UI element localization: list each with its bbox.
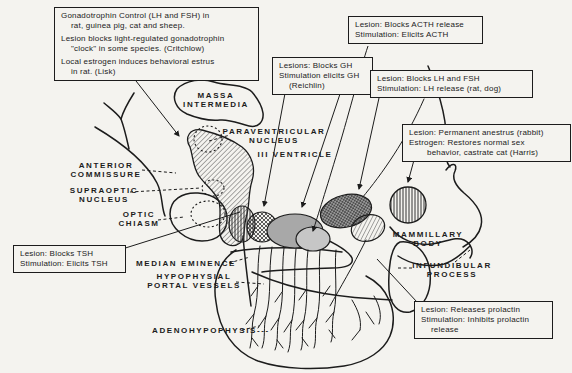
label-supraoptic-nucleus: SUPRAOPTIC NUCLEUS xyxy=(70,186,138,204)
label-third-ventricle: III VENTRICLE xyxy=(257,150,332,159)
label-anterior-commissure: ANTERIOR COMMISSURE xyxy=(70,161,141,179)
callout-prolactin: Lesion: Releases prolactin Stimulation: … xyxy=(414,301,553,339)
callout-line: "clock" in some species. (Critchlow) xyxy=(61,44,253,54)
callout-line: (Reichlin) xyxy=(279,81,367,91)
callout-line: Stimulation: LH release (rat, dog) xyxy=(377,84,527,94)
callout-gh: Lesions: Blocks GH Stimulation elicits G… xyxy=(272,57,373,95)
callout-lh-fsh: Lesion: Blocks LH and FSH Stimulation: L… xyxy=(370,70,533,98)
portal-vessels xyxy=(246,246,380,352)
callout-line: Local estrogen induces behavioral estrus xyxy=(61,57,253,67)
label-massa-intermedia: MASSA INTERMEDIA xyxy=(183,91,249,109)
label-median-eminence: MEDIAN EMINENCE xyxy=(136,259,236,268)
callout-line: behavior, castrate cat (Harris) xyxy=(409,148,565,158)
callout-anestrus: Lesion: Permanent anestrus (rabbit) Estr… xyxy=(402,124,571,162)
callout-line: Lesion: Blocks ACTH release xyxy=(355,20,477,30)
callout-line: Lesion: Releases prolactin xyxy=(421,305,547,315)
label-infundibular-process: INFUNDIBULAR PROCESS xyxy=(412,261,492,279)
callout-line: Lesion: Blocks LH and FSH xyxy=(377,74,527,84)
callout-line: in rat. (Lisk) xyxy=(61,67,253,77)
callout-line: Stimulation: Elicits ACTH xyxy=(355,30,477,40)
callout-line: Stimulation: Inhibits prolactin xyxy=(421,315,547,325)
callout-line: Lesion blocks light-regulated gonadotrop… xyxy=(61,34,253,44)
callout-line: release xyxy=(421,325,547,335)
label-mammillary-body: MAMMILLARY BODY xyxy=(393,230,463,248)
callout-line: Lesions: Blocks GH xyxy=(279,61,367,71)
label-adenohypophysis: ADENOHYPOPHYSIS--- xyxy=(152,326,270,335)
label-hypophysial-portal-vessels: HYPOPHYSIAL PORTAL VESSELS xyxy=(147,272,241,290)
mammillary-nucleus xyxy=(390,187,426,223)
label-optic-chiasm: OPTIC CHIASM xyxy=(118,210,159,228)
callout-line: Lesion: Permanent anestrus (rabbit) xyxy=(409,128,565,138)
callout-line: Lesion: Blocks TSH xyxy=(20,249,120,259)
callout-line: rat, guinea pig, cat and sheep. xyxy=(61,21,253,31)
callout-line: Stimulation elicits GH xyxy=(279,71,367,81)
callout-line: Stimulation: Elicits TSH xyxy=(20,259,120,269)
callout-line: Gonadotrophin Control (LH and FSH) in xyxy=(61,11,253,21)
callout-gonadotrophin: Gonadotrophin Control (LH and FSH) in ra… xyxy=(54,7,259,81)
callout-line: Estrogen: Restores normal sex xyxy=(409,138,565,148)
hypothalamus-pituitary-diagram: Gonadotrophin Control (LH and FSH) in ra… xyxy=(0,0,572,373)
callout-tsh: Lesion: Blocks TSH Stimulation: Elicits … xyxy=(13,245,126,273)
label-paraventricular-nucleus: PARAVENTRICULAR NUCLEUS xyxy=(223,127,326,145)
callout-acth: Lesion: Blocks ACTH release Stimulation:… xyxy=(348,16,483,44)
